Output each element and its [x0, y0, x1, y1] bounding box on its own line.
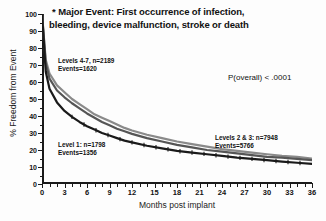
y-tick-label: 70 — [29, 62, 37, 69]
plot-area: 0102030405060708090100 03691215182124273… — [42, 14, 312, 184]
x-tick-label: 21 — [195, 188, 203, 197]
y-tick-label: 30 — [29, 130, 37, 137]
annotation-level-1: Level 1: n=1798 Events=1356 — [58, 141, 105, 156]
y-tick-label: 10 — [29, 164, 37, 171]
x-tick-label: 18 — [173, 188, 181, 197]
y-tick-label: 40 — [29, 113, 37, 120]
x-tick-label: 30 — [263, 188, 271, 197]
x-tick-label: 24 — [218, 188, 226, 197]
y-tick-label: 100 — [25, 11, 37, 18]
annotation-levels-4-7-line-1: Levels 4-7, n=2189 — [58, 57, 114, 65]
y-tick-label: 80 — [29, 45, 37, 52]
y-tick-label: 20 — [29, 147, 37, 154]
annotation-levels-2-3-line-1: Levels 2 & 3: n=7948 — [215, 134, 278, 142]
annotation-levels-2-3-line-2: Events=5766 — [215, 142, 278, 150]
x-tick-label: 9 — [107, 188, 111, 197]
y-tick-label: 0 — [33, 181, 37, 188]
x-tick-label: 0 — [40, 188, 44, 197]
p-value-annotation: P(overall) < .0001 — [228, 73, 291, 82]
annotation-level-1-line-2: Events=1356 — [58, 149, 105, 157]
annotation-levels-4-7-line-2: Events=1620 — [58, 65, 114, 73]
survival-curves — [42, 14, 312, 184]
x-tick-label: 15 — [150, 188, 158, 197]
annotation-levels-2-3: Levels 2 & 3: n=7948 Events=5766 — [215, 134, 278, 149]
y-tick-label: 60 — [29, 79, 37, 86]
y-tick-label: 50 — [29, 96, 37, 103]
y-axis-title: % Freedom from Event — [8, 28, 18, 158]
y-tick-label: 90 — [29, 28, 37, 35]
x-tick-label: 27 — [240, 188, 248, 197]
chart-figure: * Major Event: First occurrence of infec… — [0, 0, 326, 221]
x-tick-label: 12 — [128, 188, 136, 197]
annotation-level-1-line-1: Level 1: n=1798 — [58, 141, 105, 149]
x-tick-label: 33 — [285, 188, 293, 197]
x-axis-title: Months post implant — [42, 200, 312, 210]
annotation-levels-4-7: Levels 4-7, n=2189 Events=1620 — [58, 57, 114, 72]
x-tick-label: 6 — [85, 188, 89, 197]
x-tick-label: 36 — [308, 188, 316, 197]
x-tick-label: 3 — [62, 188, 66, 197]
